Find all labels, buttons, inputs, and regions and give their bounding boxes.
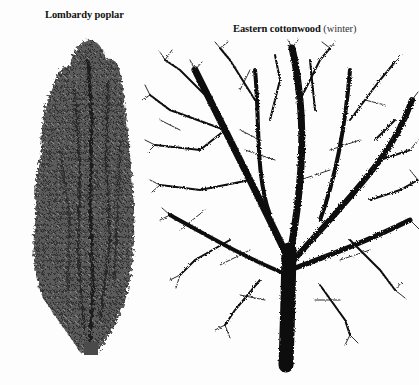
eastern-cottonwood-illustration: [0, 0, 419, 385]
